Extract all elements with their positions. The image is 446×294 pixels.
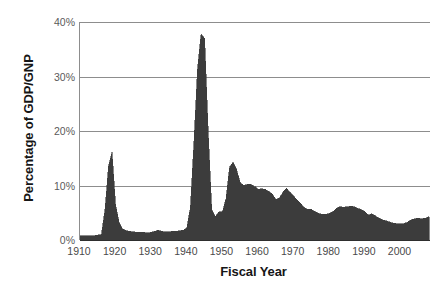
- chart-container: Percentage of GDP/GNP 40% 30% 20% 10% 0%…: [0, 0, 446, 294]
- x-axis-tick-labels: 1910192019301940195019601970198019902000: [0, 0, 446, 294]
- x-tick-label-2000: 2000: [380, 245, 420, 257]
- x-tick-label-1920: 1920: [95, 245, 135, 257]
- x-tick-label-1940: 1940: [166, 245, 206, 257]
- x-tick-label-1950: 1950: [201, 245, 241, 257]
- x-tick-label-1910: 1910: [59, 245, 99, 257]
- x-tick-label-1980: 1980: [308, 245, 348, 257]
- x-tick-label-1970: 1970: [273, 245, 313, 257]
- x-tick-label-1990: 1990: [344, 245, 384, 257]
- x-tick-label-1960: 1960: [237, 245, 277, 257]
- x-axis-title: Fiscal Year: [79, 264, 428, 279]
- x-tick-label-1930: 1930: [130, 245, 170, 257]
